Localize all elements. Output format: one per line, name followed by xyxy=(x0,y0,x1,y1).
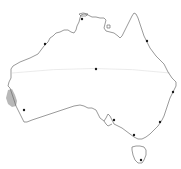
marker-southeast[interactable] xyxy=(159,121,161,123)
marker-east[interactable] xyxy=(172,91,174,93)
tasmania-coastline xyxy=(132,146,146,163)
marker-northwest[interactable] xyxy=(44,43,46,45)
marker-west[interactable] xyxy=(23,109,25,111)
gulf-coastline xyxy=(104,121,112,126)
marker-center[interactable] xyxy=(95,68,97,70)
marker-south-central[interactable] xyxy=(113,119,115,121)
australia-map xyxy=(0,0,181,169)
latitude-line xyxy=(12,69,170,74)
mainland-coastline xyxy=(8,13,176,139)
marker-tasmania[interactable] xyxy=(140,159,142,161)
marker-south[interactable] xyxy=(133,134,135,136)
groote-island xyxy=(107,25,110,28)
marker-northeast[interactable] xyxy=(146,40,148,42)
marker-north[interactable] xyxy=(81,18,83,20)
